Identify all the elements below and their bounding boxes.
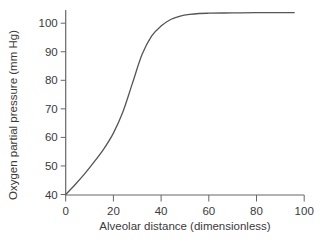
oxygen-pressure-curve (66, 13, 295, 195)
chart: 405060708090100020406080100 Alveolar dis… (0, 0, 331, 245)
y-tick-label: 80 (45, 74, 58, 86)
y-tick-label: 70 (45, 103, 58, 115)
y-tick-label: 40 (45, 189, 58, 201)
x-tick-label: 20 (107, 205, 120, 217)
x-tick-label: 100 (295, 205, 314, 217)
series (66, 13, 295, 195)
x-tick-label: 0 (62, 205, 68, 217)
x-axis-label: Alveolar distance (dimensionless) (99, 220, 270, 232)
x-tick-label: 40 (155, 205, 168, 217)
x-tick-label: 80 (250, 205, 263, 217)
x-tick-label: 60 (202, 205, 215, 217)
y-tick-label: 60 (45, 131, 58, 143)
y-tick-label: 100 (39, 17, 58, 29)
y-tick-label: 90 (45, 46, 58, 58)
axes: 405060708090100020406080100 (39, 10, 314, 217)
y-axis-label: Oxygen partial pressure (mm Hg) (7, 30, 19, 200)
y-tick-label: 50 (45, 160, 58, 172)
